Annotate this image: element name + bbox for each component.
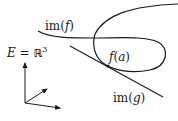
label-f-a-close: ) [125,50,130,64]
axes [25,63,60,108]
diagram-canvas: im(f) E = ℝ3 f(a) im(g) [0,0,178,121]
label-im-g-var: g [133,91,141,105]
curve-upper-branch [95,4,178,34]
label-space-e: E = ℝ3 [7,47,47,59]
label-im-g-prefix: im( [113,91,133,105]
label-im-f: im(f) [45,20,74,32]
label-exponent: 3 [42,45,47,54]
axis-horizontal [25,103,60,108]
label-equals: = [20,46,30,60]
label-f-a: f(a) [109,51,130,63]
label-e: E [7,46,16,60]
label-r: ℝ [33,47,42,60]
label-im-f-suffix: ) [69,19,74,33]
label-im-f-prefix: im( [45,19,65,33]
label-im-g: im(g) [113,92,145,104]
label-im-g-suffix: ) [141,91,146,105]
diagram-svg [0,0,178,121]
curve-im-f [38,31,166,72]
axis-diagonal [25,89,47,103]
point-f-a [106,64,109,67]
